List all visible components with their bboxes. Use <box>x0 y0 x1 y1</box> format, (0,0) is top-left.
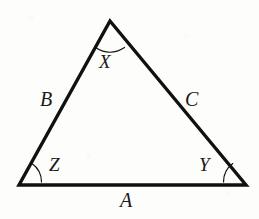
angle-label-z: Z <box>49 155 60 174</box>
side-label-b: B <box>40 89 52 109</box>
figure-canvas: X Z Y B C A <box>0 0 259 219</box>
side-label-a: A <box>120 190 132 210</box>
angle-label-x: X <box>99 52 111 71</box>
triangle-figure <box>0 0 259 219</box>
bottom-left-angle-arc <box>32 163 42 182</box>
side-label-c: C <box>185 89 198 109</box>
angle-label-y: Y <box>199 155 210 174</box>
